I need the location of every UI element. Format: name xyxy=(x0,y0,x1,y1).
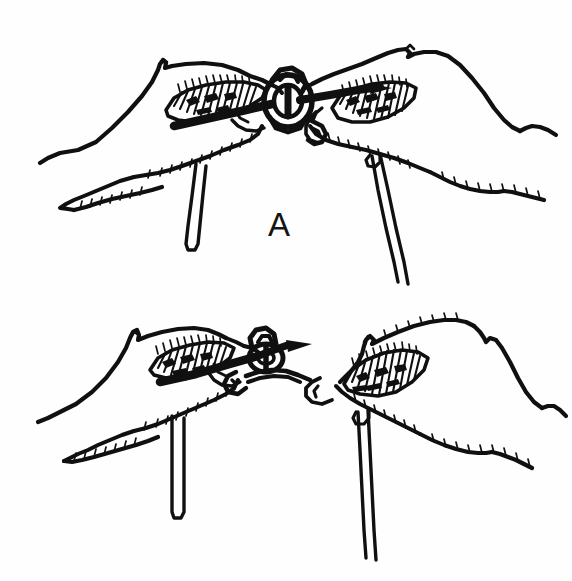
right-finger-shading-b xyxy=(344,342,428,396)
right-hand-a xyxy=(303,45,556,200)
panel-a-drawing xyxy=(0,0,572,290)
panel-label-a: A xyxy=(268,208,291,241)
panel-a: A xyxy=(0,0,572,290)
panel-b: B xyxy=(0,290,572,581)
hand-edge-bristles-a xyxy=(80,133,540,209)
right-finger-shading-a xyxy=(332,75,416,122)
figure-root: A xyxy=(0,0,572,581)
panel-b-drawing xyxy=(0,290,572,581)
suture-strands-a xyxy=(186,154,408,284)
suture-strands-b xyxy=(172,410,376,560)
right-hand-b xyxy=(306,320,566,468)
